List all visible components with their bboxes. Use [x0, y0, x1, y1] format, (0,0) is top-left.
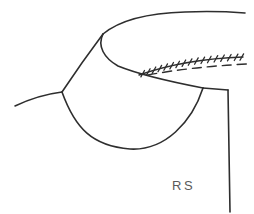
label-rs: RS	[172, 178, 195, 193]
figure-canvas: RS	[0, 0, 254, 214]
background-rect	[0, 0, 254, 214]
figure-root: RS	[0, 0, 254, 214]
